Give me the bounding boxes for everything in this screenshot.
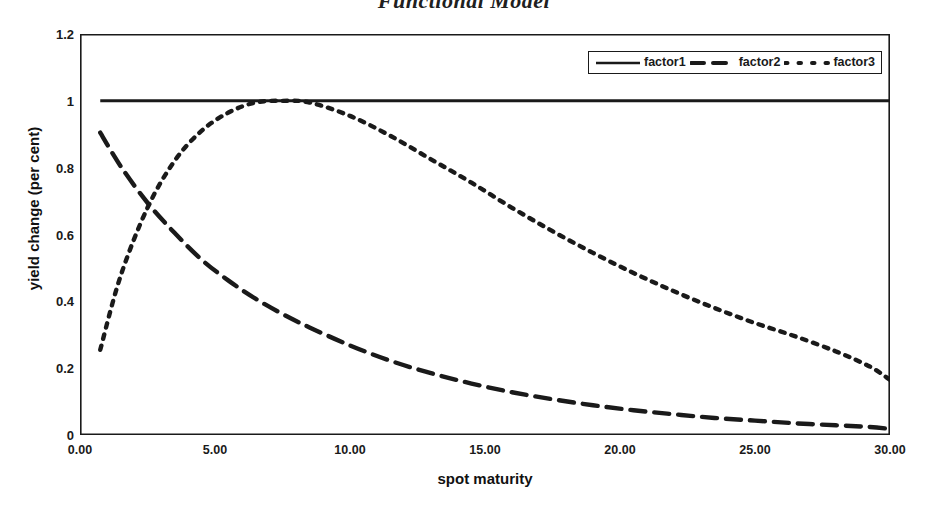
y-tick-label: 1.2 xyxy=(18,27,74,42)
x-tick-label: 15.00 xyxy=(445,443,525,457)
x-tick-label: 10.00 xyxy=(310,443,390,457)
legend-entry-factor1[interactable]: factor1 xyxy=(595,56,686,70)
plot-area xyxy=(80,34,890,435)
x-tick-label: 25.00 xyxy=(715,443,795,457)
x-tick-label: 30.00 xyxy=(850,443,928,457)
x-tick-label: 5.00 xyxy=(175,443,255,457)
chart-legend: factor1factor2factor3 xyxy=(588,51,882,74)
y-tick-label: 0.6 xyxy=(18,227,74,242)
y-tick-label: 1 xyxy=(18,93,74,108)
y-tick-label: 0.4 xyxy=(18,294,74,309)
y-tick-label: 0.8 xyxy=(18,160,74,175)
legend-swatch-dashed xyxy=(690,56,736,70)
y-axis-tick-labels: 00.20.40.60.811.2 xyxy=(10,34,74,435)
chart-title: Functional Model xyxy=(0,0,928,14)
legend-label: factor1 xyxy=(644,56,686,69)
legend-swatch-dotted xyxy=(784,56,830,70)
series-line-factor3 xyxy=(100,101,890,380)
x-axis-tick-labels: 0.005.0010.0015.0020.0025.0030.00 xyxy=(80,443,890,463)
x-tick-label: 20.00 xyxy=(580,443,660,457)
chart-figure: Functional Model yield change (per cent)… xyxy=(0,0,928,515)
y-tick-label: 0 xyxy=(18,428,74,443)
x-tick-label: 0.00 xyxy=(40,443,120,457)
plot-svg xyxy=(80,34,890,435)
series-line-factor2 xyxy=(100,133,890,429)
legend-label: factor3 xyxy=(833,56,875,69)
y-tick-label: 0.2 xyxy=(18,361,74,376)
legend-swatch-solid xyxy=(595,56,641,70)
legend-entry-factor3[interactable]: factor3 xyxy=(784,56,875,70)
legend-entry-factor2[interactable]: factor2 xyxy=(690,56,781,70)
legend-label: factor2 xyxy=(739,56,781,69)
x-axis-label: spot maturity xyxy=(80,470,890,487)
